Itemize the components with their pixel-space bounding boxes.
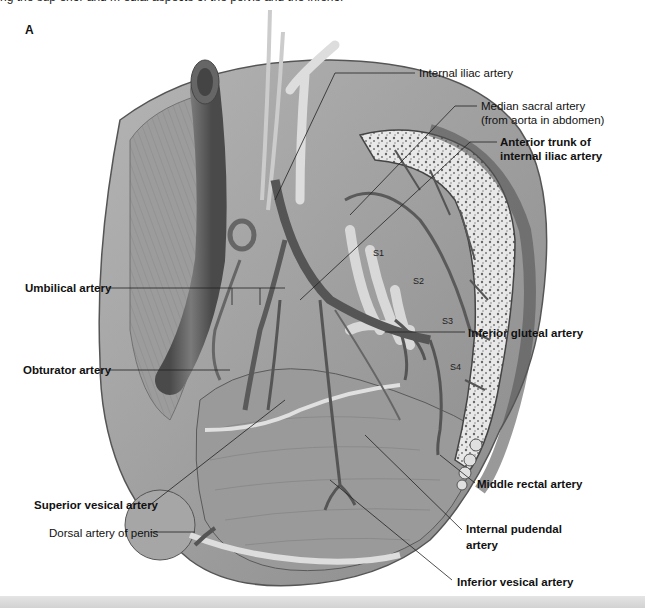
label-anterior-trunk-1: Anterior trunk of (500, 135, 591, 149)
label-internal-pudendal-1: Internal pudendal (466, 522, 562, 536)
pelvis-illustration (0, 0, 645, 608)
label-internal-pudendal-2: artery (466, 538, 498, 552)
label-inferior-vesical-artery: Inferior vesical artery (457, 575, 573, 589)
label-obturator-artery: Obturator artery (23, 363, 111, 377)
sacral-label-s3: S3 (442, 316, 453, 326)
label-median-sacral-artery-1: Median sacral artery (481, 99, 585, 113)
sacral-label-s4: S4 (450, 362, 461, 372)
label-dorsal-artery-of-penis: Dorsal artery of penis (49, 526, 158, 540)
bottom-gray-strip (0, 596, 645, 608)
sacral-label-s1: S1 (373, 248, 384, 258)
sacral-label-s2: S2 (413, 276, 424, 286)
label-middle-rectal-artery: Middle rectal artery (477, 477, 582, 491)
label-internal-iliac-artery: Internal iliac artery (419, 66, 513, 80)
label-inferior-gluteal-artery: Inferior gluteal artery (468, 326, 583, 340)
label-superior-vesical-artery: Superior vesical artery (34, 498, 158, 512)
label-median-sacral-artery-2: (from aorta in abdomen) (481, 113, 604, 127)
label-anterior-trunk-2: internal iliac artery (500, 149, 602, 163)
label-umbilical-artery: Umbilical artery (25, 281, 111, 295)
